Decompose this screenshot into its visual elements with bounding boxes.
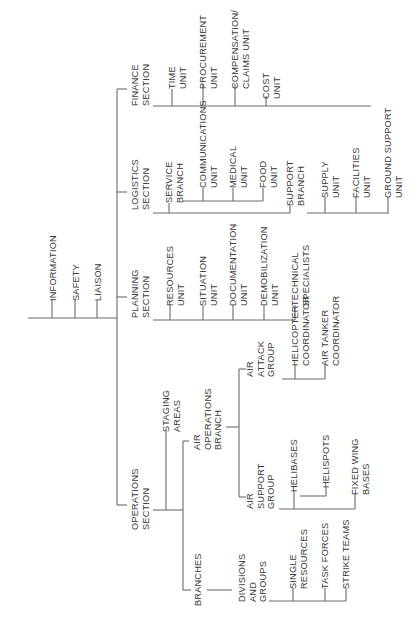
node-air-attack-group: AIRATTACKGROUP (245, 340, 276, 377)
node-resources-unit: RESOURCESUNIT (165, 246, 186, 306)
node-compensation-claims-unit: COMPENSATION/CLAIMS UNIT (230, 10, 251, 89)
node-service-branch: SERVICEBRANCH (164, 161, 185, 203)
node-branches: BRANCHES (193, 553, 203, 606)
node-air-tanker-coordinator: AIR TANKERCOORDINATOR (320, 296, 341, 366)
node-task-forces: TASK FORCES (320, 523, 330, 589)
node-procurement-unit: PROCUREMENTUNIT (198, 15, 219, 89)
node-operations-section: OPERATIONSSECTION (130, 468, 151, 530)
node-information: INFORMATION (48, 235, 58, 301)
node-helispots: HELISPOTS (321, 435, 331, 488)
node-staging-areas: STAGINGAREAS (161, 390, 182, 432)
node-time-unit: TIMEUNIT (167, 66, 188, 89)
node-fixed-wing-bases: FIXED WINGBASES (350, 438, 371, 495)
node-communications-unit: COMMUNICATIONSUNIT (198, 100, 219, 188)
node-liaison: LIAISON (93, 263, 103, 301)
ics-org-chart: INFORMATION SAFETY LIAISON FINANCESECTIO… (0, 0, 419, 629)
node-ground-support-unit: GROUND SUPPORTUNIT (383, 107, 404, 198)
node-planning-section: PLANNINGSECTION (130, 269, 151, 318)
node-air-support-group: AIRSUPPORTGROUP (245, 463, 276, 509)
node-situation-unit: SITUATIONUNIT (198, 256, 219, 306)
node-food-unit: FOODUNIT (258, 160, 279, 188)
node-documentation-unit: DOCUMENTATIONUNIT (228, 224, 249, 306)
node-strike-teams: STRIKE TEAMS (341, 519, 351, 589)
node-divisions-and-groups: DIVISIONSANDGROUPS (237, 554, 268, 602)
node-safety: SAFETY (71, 264, 81, 301)
node-supply-unit: SUPPLYUNIT (320, 161, 341, 198)
node-facilities-unit: FACILITIESUNIT (351, 147, 372, 198)
node-support-branch: SUPPORTBRANCH (285, 160, 306, 206)
node-helibases: HELIBASES (289, 439, 299, 492)
node-single-resources: SINGLERESOURCES (288, 529, 309, 589)
node-medical-unit: MEDICALUNIT (228, 146, 249, 188)
labels: INFORMATION SAFETY LIAISON FINANCESECTIO… (48, 10, 404, 606)
node-helicopter-coordinator: HELICOPTERCOORDINATOR (290, 296, 311, 366)
node-air-operations-branch: AIROPERATIONSBRANCH (192, 388, 223, 450)
node-cost-unit: COSTUNIT (261, 72, 282, 99)
node-finance-section: FINANCESECTION (130, 64, 151, 106)
node-logistics-section: LOGISTICSSECTION (130, 159, 151, 210)
node-demobilization-unit: DEMOBILIZATIONUNIT (259, 226, 280, 306)
